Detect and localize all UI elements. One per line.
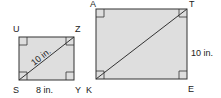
right-side-label: 10 in.: [191, 48, 213, 58]
vertex-y: Y: [75, 85, 81, 95]
bottom-side-label: 8 in.: [36, 85, 53, 95]
vertex-s: S: [13, 85, 19, 95]
vertex-u: U: [13, 24, 20, 34]
large-rectangle: A T 10 in. K E: [86, 0, 213, 95]
vertex-e: E: [188, 84, 194, 94]
vertex-t: T: [189, 0, 195, 9]
vertex-k: K: [86, 85, 92, 95]
vertex-a: A: [90, 0, 96, 9]
small-rectangle: 10 in. U Z S 8 in. Y: [13, 24, 81, 95]
vertex-z: Z: [75, 24, 81, 34]
diagram-canvas: 10 in. U Z S 8 in. Y A T 10 in. K E: [0, 0, 221, 98]
